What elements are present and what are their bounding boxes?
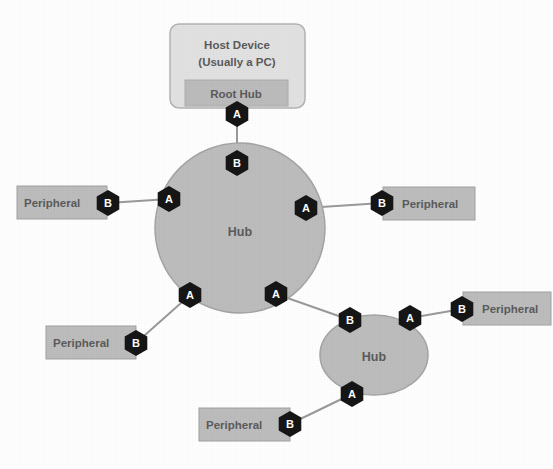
- host-device-node: Host Device (Usually a PC) Root Hub: [170, 24, 305, 108]
- peripheral-left-label: Peripheral: [24, 197, 80, 209]
- connector-main-hub-upstream-b-letter: B: [233, 157, 241, 169]
- peripheral-right: Peripheral: [383, 187, 475, 220]
- root-hub-label: Root Hub: [210, 88, 262, 100]
- host-device-line1: Host Device: [204, 39, 270, 51]
- host-device-line2: (Usually a PC): [198, 56, 275, 68]
- connector-main-hub-left-a-letter: A: [165, 193, 173, 205]
- connector-second-hub-bottom-a-letter: A: [348, 388, 356, 400]
- connector-main-hub-lowerright-a-letter: A: [272, 288, 280, 300]
- peripheral-bottom-label: Peripheral: [206, 419, 262, 431]
- peripheral-bottom: Peripheral: [199, 408, 290, 441]
- peripheral-far-right: Peripheral: [463, 292, 551, 325]
- connector-peripheral-bottom-b-letter: B: [286, 418, 294, 430]
- peripheral-left: Peripheral: [17, 186, 107, 219]
- diagram-canvas: Host Device (Usually a PC) Root Hub Hub …: [0, 0, 553, 469]
- connector-peripheral-left-b-letter: B: [104, 197, 112, 209]
- connector-root-hub-a-letter: A: [233, 108, 241, 120]
- connector-peripheral-far-right-b-letter: B: [458, 303, 466, 315]
- connector-peripheral-lower-left-b-letter: B: [132, 337, 140, 349]
- connector-main-hub-right-a-letter: A: [302, 202, 310, 214]
- connector-main-hub-lowerleft-a-letter: A: [186, 289, 194, 301]
- usb-topology-diagram: Host Device (Usually a PC) Root Hub Hub …: [0, 0, 553, 469]
- peripheral-right-label: Peripheral: [402, 198, 458, 210]
- peripheral-far-right-label: Peripheral: [482, 303, 538, 315]
- connector-peripheral-right-b-letter: B: [378, 197, 386, 209]
- peripheral-lower-left-label: Peripheral: [53, 337, 109, 349]
- connector-second-hub-right-a-letter: A: [406, 312, 414, 324]
- connector-second-hub-upstream-b-letter: B: [346, 314, 354, 326]
- main-hub-label: Hub: [228, 225, 253, 239]
- second-hub-label: Hub: [362, 350, 387, 364]
- peripheral-lower-left: Peripheral: [46, 326, 136, 359]
